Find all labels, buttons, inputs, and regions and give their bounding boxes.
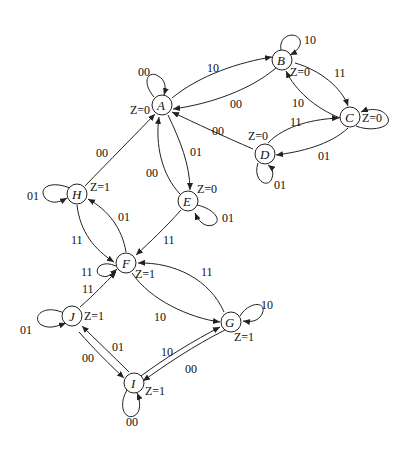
label-g-g: 10 — [261, 298, 273, 312]
label-c-b: 10 — [292, 96, 304, 110]
state-h[interactable]: H — [67, 184, 87, 204]
label-e-a: 00 — [146, 166, 158, 180]
output-b: Z=0 — [290, 65, 310, 79]
label-f-g: 10 — [154, 310, 166, 324]
output-g: Z=1 — [234, 330, 254, 344]
output-h: Z=1 — [90, 180, 110, 194]
svg-text:E: E — [182, 194, 191, 209]
output-a: Z=0 — [130, 103, 150, 117]
label-a-b: 10 — [207, 61, 219, 75]
output-j: Z=1 — [84, 309, 104, 323]
state-b[interactable]: B — [272, 50, 292, 70]
state-diagram: A B C D E F G H I J Z=0 Z=0 Z=0 Z=0 Z=0 … — [0, 0, 415, 449]
label-h-f: 11 — [71, 233, 83, 247]
output-f: Z=1 — [135, 267, 155, 281]
output-d: Z=0 — [248, 129, 268, 143]
label-j-f: 11 — [82, 282, 94, 296]
state-i[interactable]: I — [124, 373, 144, 393]
output-i: Z=1 — [145, 384, 165, 398]
svg-text:H: H — [71, 187, 82, 202]
label-d-a: 00 — [212, 124, 224, 138]
label-i-i: 00 — [126, 415, 138, 429]
state-d[interactable]: D — [255, 144, 275, 164]
state-a[interactable]: A — [152, 95, 172, 115]
label-d-d: 01 — [274, 178, 286, 192]
transition-labels: 00 10 01 10 00 11 10 01 11 00 01 00 01 1… — [20, 33, 346, 429]
svg-text:D: D — [259, 147, 270, 162]
label-f-h: 01 — [118, 210, 130, 224]
label-h-a: 00 — [96, 146, 108, 160]
svg-text:C: C — [345, 110, 354, 125]
state-f[interactable]: F — [116, 253, 136, 273]
label-a-a: 00 — [138, 65, 150, 79]
state-nodes: A B C D E F G H I J — [62, 50, 360, 393]
svg-text:G: G — [225, 315, 235, 330]
state-c[interactable]: C — [340, 107, 360, 127]
output-c: Z=0 — [362, 111, 382, 125]
label-g-i: 00 — [185, 362, 197, 376]
label-b-a: 00 — [230, 97, 242, 111]
svg-text:B: B — [277, 53, 285, 68]
state-diagram-svg: A B C D E F G H I J Z=0 Z=0 Z=0 Z=0 Z=0 … — [0, 0, 415, 449]
svg-text:I: I — [130, 376, 136, 391]
state-g[interactable]: G — [221, 312, 241, 332]
state-j[interactable]: J — [62, 306, 82, 326]
output-e: Z=0 — [197, 182, 217, 196]
label-f-f: 11 — [81, 265, 93, 279]
label-a-e: 01 — [190, 145, 202, 159]
label-i-j: 01 — [112, 340, 124, 354]
label-b-b: 10 — [304, 33, 316, 47]
svg-text:A: A — [156, 98, 165, 113]
state-output-labels: Z=0 Z=0 Z=0 Z=0 Z=0 Z=1 Z=1 Z=1 Z=1 Z=1 — [84, 65, 382, 398]
label-j-j: 01 — [20, 323, 32, 337]
label-e-e: 01 — [222, 211, 234, 225]
label-h-h: 01 — [27, 189, 39, 203]
state-e[interactable]: E — [178, 191, 198, 211]
svg-text:F: F — [121, 256, 131, 271]
label-e-f: 11 — [163, 233, 175, 247]
label-b-c: 11 — [334, 66, 346, 80]
label-c-d: 01 — [318, 149, 330, 163]
label-d-c: 11 — [290, 115, 302, 129]
label-j-i: 00 — [82, 351, 94, 365]
label-g-f: 11 — [201, 265, 213, 279]
label-i-g: 10 — [161, 345, 173, 359]
